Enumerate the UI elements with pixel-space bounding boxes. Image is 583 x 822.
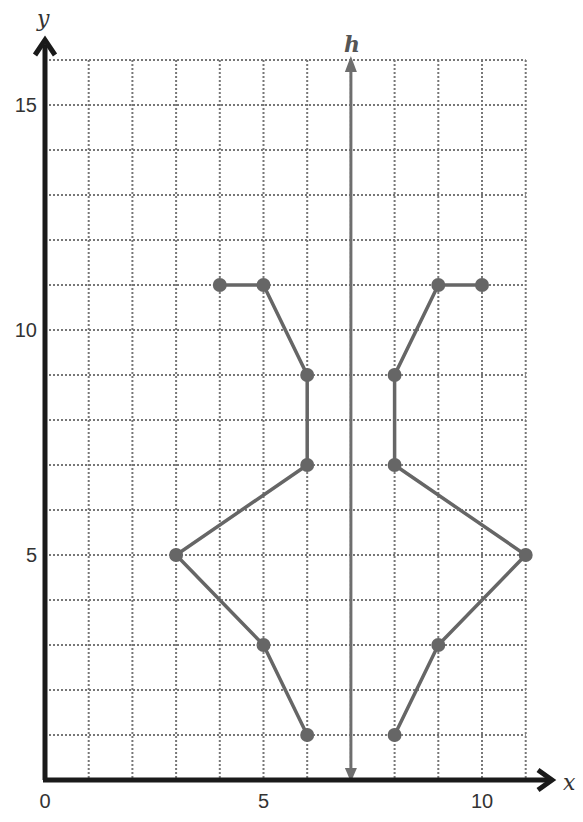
coordinate-plane-diagram: h yx 051051015: [0, 0, 583, 822]
plot-svg: h yx 051051015: [0, 0, 583, 822]
y-tick-label: 10: [15, 319, 37, 341]
data-point: [475, 278, 489, 292]
data-point: [213, 278, 227, 292]
data-point: [300, 368, 314, 382]
line-of-reflection-h: h: [344, 31, 360, 782]
data-point: [388, 368, 402, 382]
data-point: [169, 548, 183, 562]
data-point: [257, 638, 271, 652]
data-point: [300, 728, 314, 742]
data-point: [300, 458, 314, 472]
x-tick-label: 5: [258, 790, 269, 812]
x-axis-label: x: [563, 770, 576, 795]
x-tick-label: 10: [471, 790, 493, 812]
data-point: [519, 548, 533, 562]
x-tick-label: 0: [39, 790, 50, 812]
tick-labels: 051051015: [15, 94, 493, 812]
data-point: [388, 728, 402, 742]
y-axis-label: y: [36, 6, 50, 31]
data-point: [431, 278, 445, 292]
line-h-label: h: [344, 31, 360, 57]
data-point: [431, 638, 445, 652]
data-point: [257, 278, 271, 292]
grid-lines: [45, 60, 526, 780]
y-tick-label: 15: [15, 94, 37, 116]
arrow-up-icon: [345, 56, 357, 72]
data-point: [388, 458, 402, 472]
figure-polyline: [176, 285, 307, 735]
y-tick-label: 5: [26, 544, 37, 566]
